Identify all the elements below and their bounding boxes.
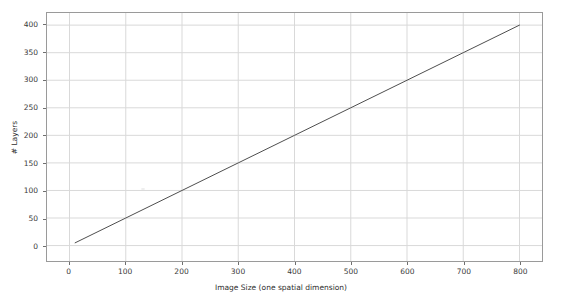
plot-area: [46, 12, 543, 262]
y-tick-mark: [43, 163, 46, 164]
x-tick-label: 300: [223, 267, 253, 276]
x-axis-label-text: Image Size (one spatial dimension): [215, 283, 347, 292]
x-tick-mark: [182, 262, 183, 265]
y-tick-mark: [43, 80, 46, 81]
x-tick-mark: [464, 262, 465, 265]
y-tick-mark: [43, 52, 46, 53]
y-tick-mark: [43, 108, 46, 109]
x-tick-mark: [69, 262, 70, 265]
x-tick-mark: [407, 262, 408, 265]
x-tick-label: 400: [280, 267, 310, 276]
y-tick-mark: [43, 191, 46, 192]
y-tick-mark: [43, 24, 46, 25]
x-tick-label: 0: [54, 267, 84, 276]
y-tick-mark: [43, 246, 46, 247]
x-axis-label: Image Size (one spatial dimension): [0, 283, 562, 292]
x-tick-mark: [295, 262, 296, 265]
x-tick-label: 700: [449, 267, 479, 276]
y-axis-label-text: # Layers: [11, 120, 20, 154]
x-tick-label: 100: [110, 267, 140, 276]
x-tick-label: 500: [336, 267, 366, 276]
x-tick-label: 600: [392, 267, 422, 276]
x-tick-mark: [351, 262, 352, 265]
y-tick-mark: [43, 135, 46, 136]
x-tick-mark: [125, 262, 126, 265]
x-tick-label: 800: [505, 267, 535, 276]
x-tick-label: 200: [167, 267, 197, 276]
data-series-line: [47, 13, 542, 261]
image-artifact-speck: [141, 188, 145, 190]
y-axis-label: # Layers: [8, 0, 22, 274]
x-tick-mark: [238, 262, 239, 265]
chart-figure: 050100150200250300350400 010020030040050…: [0, 0, 562, 298]
x-tick-mark: [520, 262, 521, 265]
y-tick-mark: [43, 219, 46, 220]
